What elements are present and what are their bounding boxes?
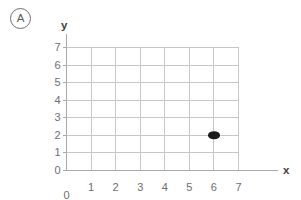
y-tick-label: 6 bbox=[49, 60, 61, 71]
y-tick-label: 7 bbox=[49, 42, 61, 53]
x-tick-label: 5 bbox=[182, 182, 196, 193]
axis-lines bbox=[67, 34, 279, 171]
coordinate-grid bbox=[0, 0, 301, 199]
x-tick-label: 7 bbox=[232, 182, 246, 193]
y-tick-label: 5 bbox=[49, 77, 61, 88]
x-tick-label: 6 bbox=[207, 182, 221, 193]
grid-lines bbox=[67, 48, 239, 171]
x-tick-label: 2 bbox=[109, 182, 123, 193]
x-tick-label: 4 bbox=[158, 182, 172, 193]
x-origin-label: 0 bbox=[60, 190, 74, 200]
y-tick-label: 3 bbox=[49, 112, 61, 123]
y-tick-label: 1 bbox=[49, 147, 61, 158]
y-tick-label: 4 bbox=[49, 95, 61, 106]
y-tick-label: 0 bbox=[49, 165, 61, 176]
x-tick-label: 1 bbox=[84, 182, 98, 193]
y-tick-label: 2 bbox=[49, 130, 61, 141]
data-point[interactable] bbox=[208, 132, 220, 140]
x-tick-label: 3 bbox=[133, 182, 147, 193]
